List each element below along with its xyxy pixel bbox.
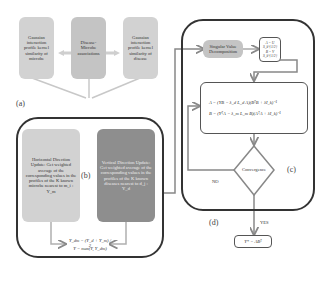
vertical-update-box: Vertical Direction Update: Get weighted … bbox=[97, 129, 155, 222]
update-b-formula: B = (YᵀA − λ_m L_m B)(AᵀA + λI_k)⁻¹ bbox=[209, 111, 281, 116]
associations-text: Disease-Microbe associations bbox=[73, 40, 104, 56]
no-label: NO bbox=[212, 179, 219, 184]
result-formula: Y* = ABᵀ bbox=[244, 239, 262, 244]
init-b-formula: B = V S_k^{1/2} bbox=[261, 50, 279, 58]
horizontal-update-box: Horizontal Direction Update: Get weighte… bbox=[22, 129, 80, 222]
microbe-similarity-box: Gaussian interaction profile kernel simi… bbox=[19, 17, 54, 79]
init-box: A = U S_k^{1/2} B = V S_k^{1/2} bbox=[259, 37, 281, 62]
disease-similarity-text: Gaussian interaction profile kernel simi… bbox=[125, 35, 156, 61]
panel-c-label: (c) bbox=[287, 165, 296, 174]
init-a-formula: A = U S_k^{1/2} bbox=[261, 41, 279, 49]
update-a-formula: A = (YB − λ_d L_d A)(BᵀB + λI_k)⁻¹ bbox=[209, 100, 277, 105]
svd-box: Singular Value Decomposition bbox=[203, 40, 243, 58]
microbe-similarity-text: Gaussian interaction profile kernel simi… bbox=[21, 35, 52, 61]
left-arrow-icon bbox=[58, 50, 72, 56]
result-box: Y* = ABᵀ bbox=[234, 235, 272, 248]
vertical-update-text: Vertical Direction Update: Get weighted … bbox=[100, 160, 152, 192]
panel-d-label: (d) bbox=[209, 218, 218, 227]
update-box: A = (YB − λ_d L_d A)(BᵀB + λI_k)⁻¹ B = (… bbox=[200, 82, 308, 134]
convergence-label: Convergence bbox=[238, 167, 270, 172]
right-arrow-icon bbox=[106, 50, 120, 56]
panel-a-label: (a) bbox=[16, 99, 25, 108]
formula-ymax: Y = max(Y, Y_dm) bbox=[68, 246, 112, 251]
horizontal-update-text: Horizontal Direction Update: Get weighte… bbox=[25, 157, 77, 194]
disease-microbe-associations-box: Disease-Microbe associations bbox=[71, 17, 106, 79]
panel-b-label: (b) bbox=[81, 171, 90, 180]
yes-label: YES bbox=[260, 220, 269, 225]
svd-text: Singular Value Decomposition bbox=[204, 44, 242, 55]
disease-similarity-box: Gaussian interaction profile kernel simi… bbox=[123, 17, 158, 79]
